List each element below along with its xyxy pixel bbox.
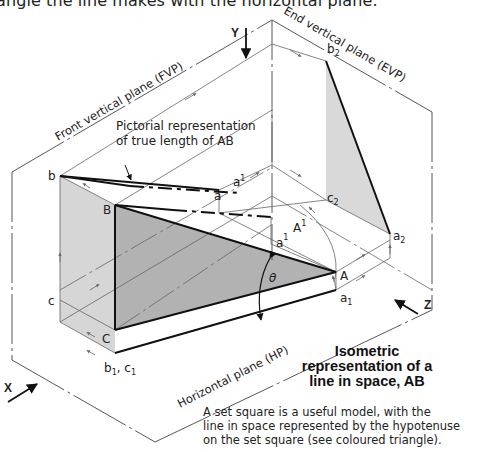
x-axis-arrow: [8, 384, 37, 402]
annotation-line-2: of true length of AB: [116, 134, 234, 148]
point-a1: a1: [340, 291, 352, 307]
annotation-line-1: Pictorial representation: [116, 119, 256, 133]
point-b: b: [48, 169, 56, 183]
point-C: C: [102, 332, 110, 346]
point-A: A: [340, 269, 349, 283]
point-a2: a2: [393, 229, 405, 245]
hp-label: Horizontal plane (HP): [175, 343, 291, 411]
y-axis-label: Y: [231, 26, 239, 40]
z-axis-arrow: [395, 300, 418, 314]
theta-label: θ: [269, 271, 277, 285]
note-line-1: A set square is a useful model, with the: [203, 405, 460, 419]
note-line-3: on the set square (see coloured triangle…: [203, 433, 460, 447]
evp-label: End vertical plane (EVP): [282, 3, 409, 84]
diagram-title: Isometric representation of a line in sp…: [292, 344, 442, 389]
title-line-3: line in space, AB: [292, 374, 442, 389]
point-B: B: [103, 203, 111, 217]
point-c: c: [48, 294, 55, 308]
point-a: a: [214, 189, 221, 203]
x-axis-label: X: [4, 381, 12, 395]
point-b1-c1: b1, c1: [104, 361, 136, 377]
explanatory-note: A set square is a useful model, with the…: [203, 405, 460, 447]
note-line-2: line in space represented by the hypoten…: [203, 419, 460, 433]
title-line-2: representation of a: [292, 359, 442, 374]
point-A-prime: A1: [293, 219, 306, 235]
title-line-1: Isometric: [292, 344, 442, 359]
point-a-prime: a1: [233, 174, 245, 189]
annotation-leader: [125, 165, 131, 180]
z-axis-label: Z: [424, 298, 431, 312]
